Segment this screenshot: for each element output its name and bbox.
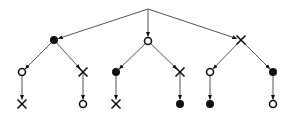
cross-icon bbox=[237, 36, 246, 45]
filled-circle-icon bbox=[50, 36, 58, 44]
tree-diagram bbox=[0, 0, 289, 114]
tree-edge bbox=[148, 41, 177, 69]
tree-edges bbox=[22, 9, 273, 100]
filled-circle-icon bbox=[176, 100, 184, 108]
tree-edge bbox=[148, 9, 237, 39]
cross-icon bbox=[18, 100, 27, 109]
tree-edge bbox=[54, 40, 80, 69]
open-circle-icon bbox=[19, 69, 26, 76]
filled-circle-icon bbox=[112, 68, 120, 76]
open-circle-icon bbox=[80, 101, 87, 108]
open-circle-icon bbox=[207, 69, 214, 76]
tree-edge bbox=[119, 41, 148, 69]
open-circle-icon bbox=[270, 101, 277, 108]
cross-icon bbox=[112, 100, 121, 109]
filled-circle-icon bbox=[206, 100, 214, 108]
tree-edge bbox=[25, 40, 54, 69]
tree-nodes bbox=[18, 36, 278, 109]
open-circle-icon bbox=[145, 38, 152, 45]
filled-circle-icon bbox=[269, 68, 277, 76]
tree-edge bbox=[58, 9, 148, 39]
